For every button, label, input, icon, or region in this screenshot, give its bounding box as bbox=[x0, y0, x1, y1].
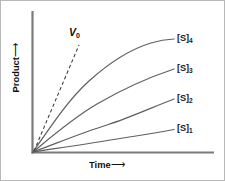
y-axis-label: Product⟶ bbox=[11, 23, 21, 113]
curve-s2 bbox=[33, 99, 174, 152]
curve-label-s1: [S]1 bbox=[177, 124, 193, 133]
curve-label-s3-base: [S] bbox=[177, 63, 189, 73]
curve-label-s2: [S]2 bbox=[177, 94, 193, 103]
curve-label-s3: [S]3 bbox=[177, 64, 193, 73]
initial-velocity-label: V0 bbox=[69, 27, 80, 38]
initial-velocity-label-subscript: 0 bbox=[76, 32, 80, 39]
x-axis-label: Time⟶ bbox=[89, 160, 124, 170]
x-axis-arrow-icon: ⟶ bbox=[111, 159, 125, 170]
curve-label-s3-subscript: 3 bbox=[189, 67, 193, 74]
x-axis-label-text: Time bbox=[89, 159, 111, 170]
curve-label-s4: [S]4 bbox=[177, 34, 193, 43]
plot-canvas bbox=[1, 1, 225, 181]
curve-label-s1-subscript: 1 bbox=[189, 127, 193, 134]
curve-label-s4-base: [S] bbox=[177, 33, 189, 43]
initial-velocity-label-base: V bbox=[69, 26, 76, 38]
curve-label-s1-base: [S] bbox=[177, 123, 189, 133]
y-axis-label-text: Product bbox=[10, 57, 21, 92]
y-axis-arrow-icon: ⟶ bbox=[10, 44, 21, 58]
curve-s1 bbox=[33, 130, 174, 153]
curve-s3 bbox=[33, 69, 174, 152]
curve-label-s2-base: [S] bbox=[177, 93, 189, 103]
kinetics-figure: [S]4 [S]3 [S]2 [S]1 V0 Product⟶ Time⟶ bbox=[0, 0, 225, 181]
curve-label-s2-subscript: 2 bbox=[189, 97, 193, 104]
curve-label-s4-subscript: 4 bbox=[189, 37, 193, 44]
